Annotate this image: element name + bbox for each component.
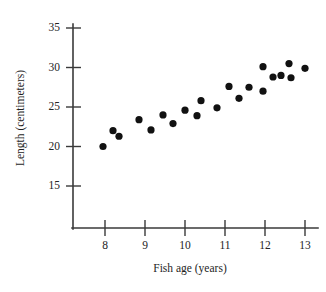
data-point: [277, 72, 284, 79]
x-tick-label-11: 11: [219, 239, 230, 251]
x-tick-label-8: 8: [102, 239, 108, 251]
data-point: [197, 97, 204, 104]
x-axis-tick-labels: 8910111213: [102, 239, 311, 251]
x-tick-label-12: 12: [259, 239, 271, 251]
data-point: [193, 112, 200, 119]
data-point: [225, 83, 232, 90]
y-tick-label-15: 15: [49, 179, 61, 191]
y-tick-label-30: 30: [49, 61, 61, 73]
y-axis-tick-labels: 1520253035: [49, 21, 61, 191]
data-point: [245, 84, 252, 91]
data-point: [169, 120, 176, 127]
x-tick-label-9: 9: [142, 239, 148, 251]
data-point: [147, 126, 154, 133]
data-point: [135, 116, 142, 123]
data-point: [301, 65, 308, 72]
y-tick-label-35: 35: [49, 21, 61, 33]
data-point: [159, 111, 166, 118]
data-point: [109, 127, 116, 134]
plot-canvas: 1520253035 8910111213 Fish age (years) L…: [0, 0, 326, 292]
y-tick-label-25: 25: [49, 100, 61, 112]
data-points: [99, 60, 308, 150]
y-axis-title: Length (centimeters): [14, 70, 27, 166]
data-point: [259, 63, 266, 70]
data-point: [115, 133, 122, 140]
data-point: [99, 143, 106, 150]
data-point: [213, 104, 220, 111]
axes: [72, 24, 318, 229]
data-point: [287, 74, 294, 81]
data-point: [235, 95, 242, 102]
data-point: [181, 107, 188, 114]
x-axis-title: Fish age (years): [153, 262, 227, 275]
y-tick-label-20: 20: [49, 140, 61, 152]
data-point: [285, 60, 292, 67]
data-point: [269, 73, 276, 80]
data-point: [259, 88, 266, 95]
scatter-plot-figure: 1520253035 8910111213 Fish age (years) L…: [0, 0, 326, 292]
x-tick-label-10: 10: [179, 239, 191, 251]
x-tick-label-13: 13: [299, 239, 311, 251]
